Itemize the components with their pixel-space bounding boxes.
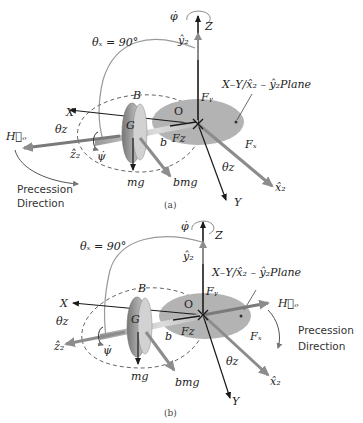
label-o-point: O [184,298,193,311]
label-x-axis: X [65,106,75,119]
label-phi-dot: φ̇ [181,220,189,233]
label-g-point: G [126,119,135,132]
plane-point [240,315,243,318]
label-o-point: O [174,105,183,118]
label-mg: mg [127,176,144,189]
z2-hat-arrow [66,332,125,344]
label-theta-z-left: θ𝑧 [55,123,68,136]
label-b-dist: b [165,330,172,343]
label-psi-dot: ψ̇ [97,150,106,163]
label-fz: F𝑧 [171,132,186,145]
plane-leader-line [237,94,252,120]
label-y2-hat: ŷ₂ [177,34,189,47]
precession-arc [15,150,78,184]
figure-panel-b: φ̇ Z ŷ₂ θₓ = 90° X–Y/x̂₂ – ŷ₂Plane B X O… [0,210,363,423]
label-fx: Fₓ [249,330,262,343]
label-fx: Fₓ [244,138,257,151]
label-b-dist: b [160,136,167,149]
label-b-point: B [132,89,141,102]
label-y-axis: Y [234,196,243,209]
label-precession-2: Direction [298,340,345,352]
label-y-axis: Y [232,395,241,408]
plane-point [235,121,238,124]
label-precession-1: Precession [17,183,73,195]
label-x-axis: X [59,297,69,310]
precession-arc [268,310,280,348]
label-precession-1: Precession [298,324,354,336]
label-phi-dot: φ̇ [170,10,178,23]
label-g-point: G [131,313,140,326]
label-z-axis: Z [204,20,213,33]
label-h-o: H⃗ₒ [5,130,26,143]
caption-b: (b) [164,408,177,418]
label-fy: Fᵧ [200,91,214,104]
label-z2-hat: ẑ₂ [69,148,80,161]
label-x2-hat: x̂₂ [270,375,281,388]
label-y2-hat: ŷ₂ [182,250,194,263]
label-precession-2: Direction [17,197,64,209]
label-bmg: bmg [175,376,200,389]
label-z-axis: Z [214,229,223,242]
label-z2-hat: ẑ₂ [53,340,64,353]
label-fy: Fᵧ [205,285,219,298]
figure-panel-a: φ̇ Z ŷ₂ θₓ = 90° X–Y/x̂₂ – ŷ₂Plane B X O… [0,0,363,210]
caption-a: (a) [164,200,176,210]
label-b-point: B [137,282,146,295]
label-h-o: H⃗ₒ [277,297,298,310]
label-plane: X–Y/x̂₂ – ŷ₂Plane [211,266,302,279]
label-theta-z-right: θ𝑧 [226,355,239,368]
label-x2-hat: x̂₂ [275,181,286,194]
gyroscope-diagram-a: φ̇ Z ŷ₂ θₓ = 90° X–Y/x̂₂ – ŷ₂Plane B X O… [0,0,363,210]
label-mg: mg [131,370,148,383]
label-theta-z-left: θ𝑧 [56,315,69,328]
label-plane: X–Y/x̂₂ – ŷ₂Plane [221,78,312,91]
label-theta-z-right: θ𝑧 [222,161,235,174]
label-psi-dot: ψ̇ [103,344,112,357]
label-bmg: bmg [173,176,198,189]
label-fz: F𝑧 [180,325,195,338]
label-theta-x: θₓ = 90° [92,36,138,49]
gyroscope-diagram-b: φ̇ Z ŷ₂ θₓ = 90° X–Y/x̂₂ – ŷ₂Plane B X O… [0,210,363,423]
label-theta-x: θₓ = 90° [80,240,126,253]
